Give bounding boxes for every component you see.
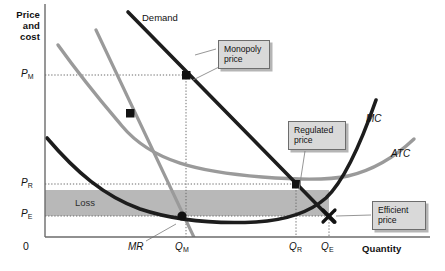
x-tick-label-qe: QE [321, 241, 333, 252]
y-tick-pr-sub: R [28, 182, 33, 189]
demand-curve-label: Demand [142, 12, 178, 23]
callout-monopoly-price-line-2: price [224, 54, 265, 64]
y-axis-title-line-2: and [6, 20, 40, 31]
mr-curve-label: MR [128, 241, 144, 252]
callout-efficient-price[interactable]: Efficient price [372, 201, 426, 230]
y-tick-pr-base: P [21, 177, 28, 188]
callout-efficient-price-line-1: Efficient [378, 205, 421, 215]
x-tick-label-qr: QR [289, 241, 302, 252]
mc-curve-label: MC [366, 113, 382, 124]
y-axis-title-line-1: Price [6, 9, 40, 20]
y-tick-label-pm: PM [21, 68, 34, 79]
y-axis-title-line-3: cost [6, 31, 40, 42]
x-tick-qr-base: Q [289, 241, 297, 252]
x-axis-title: Quantity [362, 243, 401, 254]
y-tick-pe-sub: E [28, 213, 33, 220]
loss-region-label: Loss [75, 197, 95, 208]
callout-regulated-price[interactable]: Regulated price [288, 121, 346, 150]
figure-canvas: Price and cost Quantity 0 PM PR PE QM QR… [0, 0, 445, 271]
y-tick-pm-sub: M [28, 73, 34, 80]
y-tick-pm-base: P [21, 68, 28, 79]
atc-curve-label: ATC [391, 148, 410, 159]
callout-monopoly-price[interactable]: Monopoly price [218, 40, 270, 69]
y-axis-title: Price and cost [6, 9, 40, 42]
axis-origin-label: 0 [23, 240, 29, 252]
callout-regulated-price-line-1: Regulated [294, 125, 341, 135]
x-tick-qr-sub: R [297, 246, 302, 253]
callout-monopoly-price-line-1: Monopoly [224, 44, 265, 54]
y-tick-label-pr: PR [21, 177, 33, 188]
callout-efficient-price-line-2: price [378, 215, 421, 225]
y-tick-pe-base: P [21, 208, 28, 219]
callout-regulated-price-line-2: price [294, 135, 341, 145]
y-tick-label-pe: PE [21, 208, 32, 219]
x-tick-qm-sub: M [183, 246, 189, 253]
x-tick-qe-sub: E [329, 246, 334, 253]
x-tick-label-qm: QM [175, 241, 189, 252]
x-tick-qe-base: Q [321, 241, 329, 252]
x-tick-qm-base: Q [175, 241, 183, 252]
